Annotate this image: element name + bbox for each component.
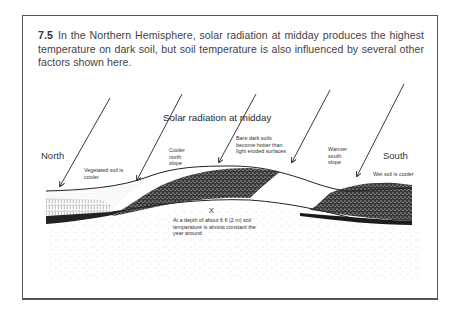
north-label: North — [41, 150, 64, 161]
south-label: South — [383, 150, 408, 161]
depth-marker-x: X — [209, 206, 214, 215]
solar-radiation-label: Solar radiation at midday — [163, 112, 271, 123]
depth-note: At a depth of about 6 ft (2 m) soil temp… — [173, 217, 265, 237]
vegetated-soil-note: Vegetated soil is cooler — [84, 167, 124, 180]
radiation-arrow-2 — [137, 94, 182, 180]
wet-soil-note: Wet soil is cooler — [373, 171, 433, 178]
radiation-arrow-5 — [357, 84, 404, 176]
warmer-south-slope-note: Warmer south slope — [328, 146, 354, 166]
cooler-north-slope-note: Cooler north slope — [169, 147, 193, 167]
radiation-arrow-4 — [292, 90, 330, 162]
bare-dark-soils-note: Bare dark soils become hotter than light… — [236, 135, 292, 155]
